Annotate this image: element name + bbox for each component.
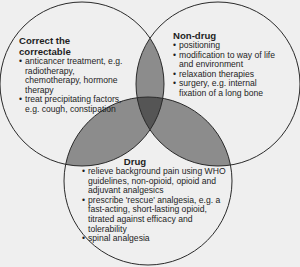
list-item: prescribe 'rescue' analgesia, e.g. a fas… xyxy=(82,196,232,234)
set-correct-text: Correct the correctable anticancer treat… xyxy=(19,35,123,115)
set-drug-text: Drug relieve background pain using WHO g… xyxy=(82,156,232,244)
set-title: Correct the correctable xyxy=(19,35,123,57)
list-item: modification to way of life and environm… xyxy=(173,51,285,70)
list-item: spinal analgesia xyxy=(82,234,232,244)
list-item: surgery, e.g. internal fixation of a lon… xyxy=(173,79,285,98)
list-item: anticancer treatment, e.g. radiotherapy,… xyxy=(19,57,123,95)
list-item: relieve background pain using WHO guidel… xyxy=(82,167,232,196)
list-item: treat precipitating factors, e.g. cough,… xyxy=(19,95,123,114)
set-nondrug-text: Non-drug positioning modification to way… xyxy=(173,30,285,99)
